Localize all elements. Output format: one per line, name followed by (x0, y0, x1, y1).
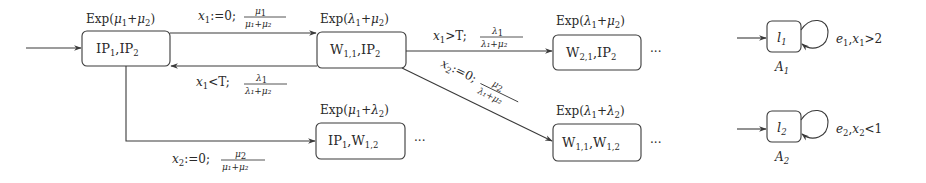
edge-w11ip2-to-w21ip2[interactable]: x1>T; λ1 λ₁+μ₂ (406, 26, 552, 51)
continuation-ellipsis: ··· (650, 45, 661, 59)
state-rate-label: Exp(λ1+μ2) (320, 12, 389, 28)
edge-guard: x1>T; (433, 29, 467, 45)
edge-prob-denominator: μ₁+μ₂ (245, 19, 272, 29)
edge-w11ip2-to-w11w12[interactable]: x2:=0; μ2 λ₁+μ₂ (402, 54, 552, 141)
continuation-ellipsis: ··· (414, 134, 425, 148)
edge-prob-denominator: μ₁+μ₂ (222, 162, 249, 172)
edge-guard: x2:=0; (438, 56, 479, 87)
automaton-name: A2 (774, 150, 789, 166)
state-rate-label: Exp(μ1+λ2) (320, 103, 389, 119)
edge-guard: x2:=0; (172, 152, 210, 168)
edge-prob-numerator: μ2 (235, 149, 246, 161)
automaton-name: A1 (774, 60, 789, 76)
edge-prob-numerator: λ1 (255, 73, 267, 85)
state-w11-ip2[interactable]: Exp(λ1+μ2) W1,1,IP2 (317, 12, 406, 68)
edge-label-rotated: x2:=0; μ2 λ₁+μ₂ (436, 54, 523, 112)
edge-prob-denominator: λ₁+μ₂ (480, 39, 508, 49)
edge-w11ip2-to-ip1ip2[interactable]: x1<T; λ1 λ₁+μ₂ (171, 66, 317, 96)
loop-label: e1,x1>2 (836, 32, 882, 48)
self-loop-edge (801, 110, 828, 138)
continuation-ellipsis: ··· (650, 136, 661, 150)
edge-prob-denominator: λ₁+μ₂ (244, 86, 272, 96)
self-loop-edge (801, 20, 828, 48)
edge-prob-numerator: μ1 (255, 6, 266, 18)
state-w21-ip2[interactable]: Exp(λ1+μ2) W2,1,IP2 ··· (553, 14, 661, 70)
automaton-a2[interactable]: l2 e2,x2<1 A2 (737, 110, 882, 166)
state-rate-label: Exp(λ1+μ2) (556, 14, 625, 30)
state-w11-w12[interactable]: Exp(λ1+λ2) W1,1,W1,2 ··· (553, 104, 661, 161)
edge-prob-numerator: λ1 (491, 26, 503, 38)
state-rate-label: Exp(λ1+λ2) (556, 104, 625, 120)
edge-ip1ip2-to-w11ip2[interactable]: x1:=0; μ1 μ₁+μ₂ (170, 6, 316, 33)
loop-label: e2,x2<1 (836, 122, 882, 138)
diagram-canvas: Exp(μ1+μ2) IP1,IP2 Exp(λ1+μ2) W1,1,IP2 E… (0, 0, 926, 183)
automaton-a1[interactable]: l1 e1,x1>2 A1 (737, 20, 882, 76)
state-ip1-ip2[interactable]: Exp(μ1+μ2) IP1,IP2 (82, 12, 170, 66)
edge-guard: x1:=0; (198, 9, 236, 25)
edge-guard: x1<T; (196, 75, 230, 91)
state-rate-label: Exp(μ1+μ2) (86, 12, 155, 28)
state-label: IP1,IP2 (96, 41, 139, 58)
state-ip1-w12[interactable]: Exp(μ1+λ2) IP1,W1,2 ··· (316, 103, 425, 159)
